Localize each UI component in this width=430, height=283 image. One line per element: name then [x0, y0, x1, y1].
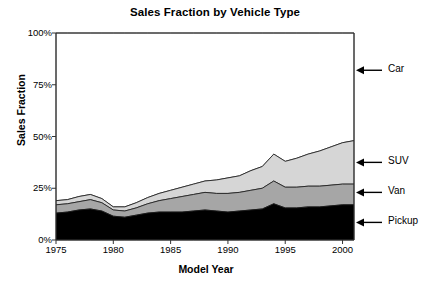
annotation-label-car: Car	[388, 63, 404, 74]
sales-fraction-area-chart: Sales Fraction by Vehicle Type Sales Fra…	[0, 0, 430, 283]
x-tick-label: 2000	[321, 244, 365, 255]
x-tick-label: 1995	[263, 244, 307, 255]
x-tick-label: 1980	[91, 244, 135, 255]
y-tick-label: 100%	[12, 28, 52, 38]
x-tick-label: 1985	[149, 244, 193, 255]
y-tick-label: 25%	[12, 183, 52, 193]
y-tick-label: 50%	[12, 132, 52, 142]
x-tick-label: 1975	[34, 244, 78, 255]
y-tick-label: 75%	[12, 80, 52, 90]
y-axis-tick-labels: 0%25%50%75%100%	[8, 0, 52, 283]
x-axis-label: Model Year	[56, 263, 356, 275]
annotation-arrow-car	[356, 66, 382, 74]
x-tick-label: 1990	[206, 244, 250, 255]
annotation-arrow-suv	[356, 158, 382, 166]
annotation-arrow-van	[356, 188, 382, 196]
annotation-label-pickup: Pickup	[388, 215, 418, 226]
plot-area	[0, 0, 430, 283]
annotation-label-van: Van	[388, 185, 405, 196]
chart-title: Sales Fraction by Vehicle Type	[0, 6, 430, 18]
annotation-arrow-pickup	[356, 218, 382, 226]
annotation-label-suv: SUV	[388, 155, 409, 166]
